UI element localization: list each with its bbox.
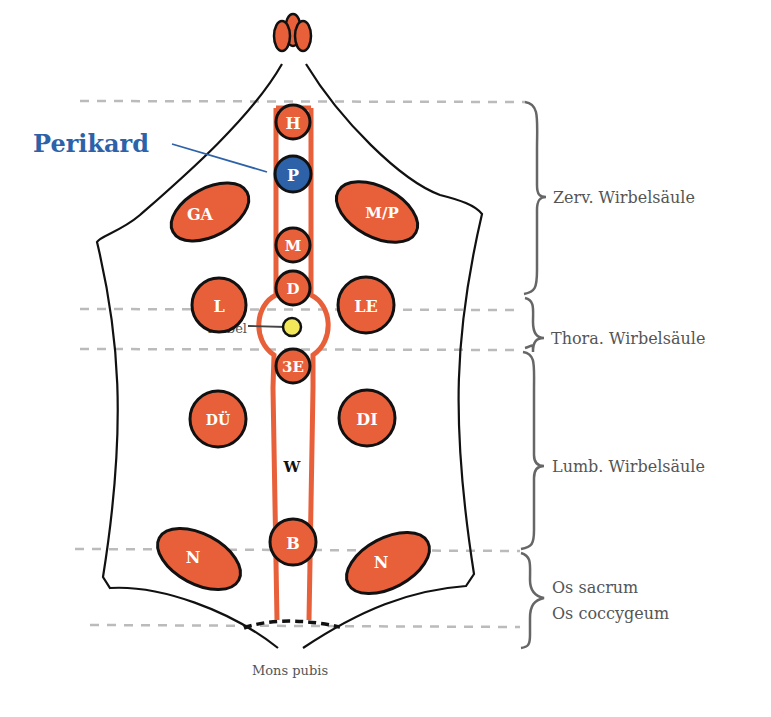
- organ-D[interactable]: D: [276, 271, 310, 305]
- divider-line-2: [80, 309, 520, 310]
- navel-dot: [283, 318, 301, 336]
- organ-MP-label: M/P: [365, 204, 398, 222]
- organ-G-label: G: [286, 47, 300, 66]
- organ-LE-label: LE: [354, 297, 377, 316]
- organ-M-label: M: [285, 237, 302, 255]
- region-label-os-coccygeum: Os coccygeum: [552, 604, 669, 623]
- brace-zerv: [524, 102, 546, 294]
- organ-H[interactable]: H: [276, 105, 310, 139]
- organ-B-label: B: [286, 534, 300, 553]
- region-label-thora: Thora. Wirbelsäule: [551, 329, 705, 348]
- pubic-dashed-line: [244, 621, 340, 628]
- brace-sacrum: [521, 553, 544, 648]
- organ-B[interactable]: B: [270, 519, 316, 565]
- region-label-zerv: Zerv. Wirbelsäule: [553, 188, 695, 207]
- organ-M[interactable]: M: [276, 228, 310, 262]
- organ-D-label: D: [286, 280, 299, 298]
- brace-lumb: [521, 352, 544, 549]
- region-label-os-sacrum: Os sacrum: [552, 578, 638, 597]
- abdominal-map-diagram: G H P M D 3E W B Nabel GA L DÜ: [0, 0, 771, 717]
- perikard-pointer-line: [172, 144, 267, 172]
- organ-DI[interactable]: DI: [339, 390, 395, 446]
- organ-H-label: H: [285, 114, 300, 133]
- organ-3E-label: 3E: [282, 358, 304, 376]
- organ-G[interactable]: G: [274, 14, 311, 66]
- brace-thora: [525, 298, 544, 352]
- organ-P-perikard[interactable]: P: [275, 156, 311, 192]
- organ-P-label: P: [287, 166, 299, 185]
- organ-N-right-label: N: [374, 553, 389, 572]
- organ-N-left[interactable]: N: [148, 516, 251, 602]
- organ-MP[interactable]: M/P: [326, 169, 427, 254]
- organ-DU[interactable]: DÜ: [190, 391, 246, 447]
- mons-pubis-label: Mons pubis: [252, 663, 328, 678]
- divider-line-1: [80, 101, 525, 102]
- organ-DU-label: DÜ: [206, 410, 230, 428]
- perikard-callout: Perikard: [33, 129, 267, 172]
- organ-L-label: L: [213, 297, 224, 316]
- organ-N-left-label: N: [186, 548, 201, 567]
- navel-pointer-line: [248, 326, 286, 327]
- organ-L[interactable]: L: [192, 278, 246, 332]
- perikard-label: Perikard: [33, 129, 149, 158]
- spine-braces: [521, 102, 546, 648]
- divider-line-5: [90, 625, 520, 627]
- organ-DI-label: DI: [356, 410, 377, 429]
- organ-3E[interactable]: 3E: [276, 349, 310, 383]
- organ-GA-label: GA: [187, 205, 214, 224]
- organ-LE[interactable]: LE: [338, 277, 394, 333]
- organ-W-label: W: [283, 458, 302, 476]
- region-label-lumb: Lumb. Wirbelsäule: [552, 457, 705, 476]
